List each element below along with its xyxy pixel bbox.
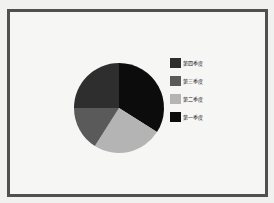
- legend-swatch-q4: [170, 58, 181, 68]
- pie-slice: [74, 63, 119, 108]
- legend-item-q2: 第二季度: [170, 93, 203, 104]
- legend-swatch-q1: [170, 112, 181, 122]
- legend-label-q1: 第一季度: [183, 112, 203, 122]
- legend-item-q1: 第一季度: [170, 111, 203, 122]
- legend-label-q2: 第二季度: [183, 94, 203, 104]
- pie-chart: [0, 0, 274, 203]
- legend-swatch-q3: [170, 76, 181, 86]
- legend-label-q4: 第四季度: [183, 58, 203, 68]
- legend-swatch-q2: [170, 94, 181, 104]
- legend-item-q3: 第三季度: [170, 75, 203, 86]
- legend-label-q3: 第三季度: [183, 76, 203, 86]
- legend-item-q4: 第四季度: [170, 57, 203, 68]
- pie-slices: [74, 63, 164, 153]
